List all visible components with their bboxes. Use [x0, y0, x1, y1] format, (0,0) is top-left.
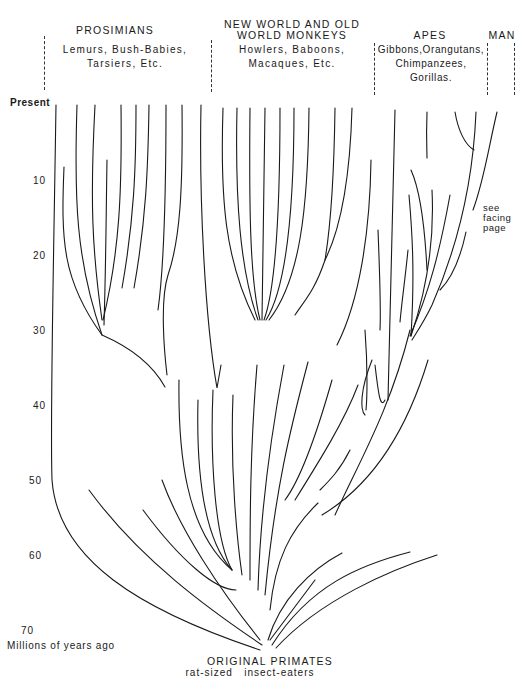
branches-prosimians	[51, 105, 260, 650]
branches-apes	[400, 112, 497, 340]
branches-lower	[89, 330, 437, 648]
branches-monkeys	[222, 108, 395, 400]
phylogenetic-tree	[0, 0, 517, 690]
